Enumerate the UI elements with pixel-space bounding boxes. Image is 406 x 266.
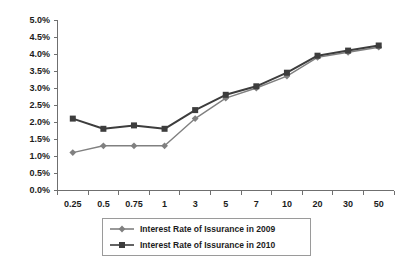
data-point-marker — [69, 149, 76, 156]
line-chart: 0.0%0.5%1.0%1.5%2.0%2.5%3.0%3.5%4.0%4.5%… — [0, 0, 406, 266]
legend-marker — [119, 242, 125, 248]
series-group — [69, 43, 382, 157]
x-tick-label: 3 — [193, 199, 198, 209]
y-tick-group: 0.0%0.5%1.0%1.5%2.0%2.5%3.0%3.5%4.0%4.5%… — [29, 15, 57, 195]
y-tick-label: 3.0% — [29, 83, 50, 93]
y-tick-label: 4.0% — [29, 49, 50, 59]
data-series — [69, 44, 382, 156]
x-tick-label: 50 — [374, 199, 384, 209]
data-point-marker — [376, 43, 382, 49]
y-tick-label: 1.0% — [29, 151, 50, 161]
x-tick-label: 10 — [282, 199, 292, 209]
legend-label: Interest Rate of Issurance in 2010 — [140, 240, 275, 250]
legend-label: Interest Rate of Issurance in 2009 — [140, 224, 275, 234]
x-tick-label: 20 — [313, 199, 323, 209]
y-tick-label: 0.5% — [29, 168, 50, 178]
data-point-marker — [131, 142, 138, 149]
data-point-marker — [345, 48, 351, 54]
data-point-marker — [100, 142, 107, 149]
y-tick-label: 3.5% — [29, 66, 50, 76]
series-line — [73, 46, 379, 129]
x-tick-label: 1 — [162, 199, 167, 209]
data-series — [70, 43, 382, 132]
data-point-marker — [162, 126, 168, 132]
x-tick-group: 0.250.50.75135710203050 — [58, 191, 395, 210]
x-tick-label: 0.25 — [64, 199, 82, 209]
x-tick-label: 30 — [343, 199, 353, 209]
x-tick-label: 0.75 — [125, 199, 143, 209]
data-point-marker — [70, 116, 76, 122]
data-point-marker — [253, 83, 259, 89]
data-point-marker — [223, 92, 229, 98]
data-point-marker — [315, 53, 321, 59]
chart-legend: Interest Rate of Issurance in 2009Intere… — [103, 219, 311, 256]
data-point-marker — [284, 70, 290, 76]
y-tick-label: 4.5% — [29, 32, 50, 42]
x-tick-label: 0.5 — [97, 199, 110, 209]
data-point-marker — [100, 126, 106, 132]
x-tick-label: 7 — [254, 199, 259, 209]
data-point-marker — [131, 122, 137, 128]
x-axis: 0.250.50.75135710203050 — [58, 191, 395, 210]
y-tick-label: 5.0% — [29, 15, 50, 25]
y-tick-label: 2.0% — [29, 117, 50, 127]
x-tick-label: 5 — [223, 199, 228, 209]
chart-canvas: 0.0%0.5%1.0%1.5%2.0%2.5%3.0%3.5%4.0%4.5%… — [0, 0, 406, 266]
y-tick-label: 1.5% — [29, 134, 50, 144]
y-tick-label: 0.0% — [29, 185, 50, 195]
data-point-marker — [192, 107, 198, 113]
y-tick-label: 2.5% — [29, 100, 50, 110]
y-axis: 0.0%0.5%1.0%1.5%2.0%2.5%3.0%3.5%4.0%4.5%… — [29, 15, 57, 195]
